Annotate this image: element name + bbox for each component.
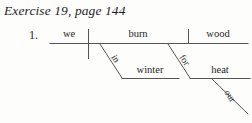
word-object-heat: heat (211, 65, 229, 76)
word-verb: burn (128, 29, 147, 40)
word-direct-object: wood (206, 29, 229, 40)
word-object-winter: winter (137, 65, 164, 76)
sentence-diagram-rules (0, 0, 252, 123)
diagram-page: Exercise 19, page 144 1. we burn wood in… (0, 0, 252, 123)
word-subject: we (63, 29, 75, 40)
